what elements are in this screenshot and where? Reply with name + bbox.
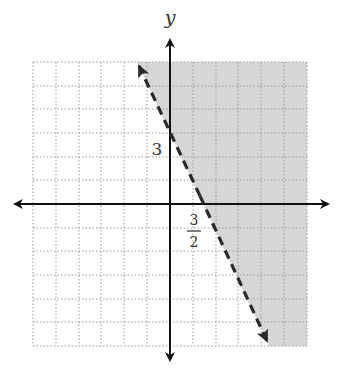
x-intercept-denominator: 2: [190, 234, 199, 250]
x-intercept-numerator: 3: [190, 212, 199, 228]
y-intercept-label: 3: [152, 139, 163, 159]
coordinate-plane: y 3 3 2: [0, 0, 344, 370]
y-axis-label: y: [164, 6, 176, 28]
